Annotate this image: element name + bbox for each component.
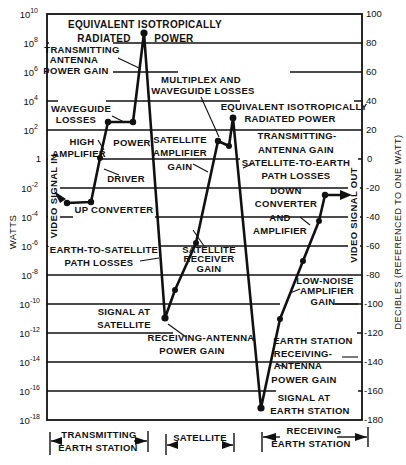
svg-text:SATELLITE: SATELLITE bbox=[173, 432, 227, 443]
svg-text:80: 80 bbox=[366, 37, 377, 48]
svg-text:EQUIVALENT ISOTROPICALLY: EQUIVALENT ISOTROPICALLY bbox=[221, 101, 368, 112]
svg-text:DRIVER: DRIVER bbox=[107, 173, 145, 184]
svg-text:10-4: 10-4 bbox=[21, 210, 38, 223]
svg-text:GAIN: GAIN bbox=[197, 263, 222, 274]
svg-text:AMPLIFIER: AMPLIFIER bbox=[300, 285, 354, 296]
svg-text:POWER: POWER bbox=[154, 33, 194, 44]
svg-text:10-14: 10-14 bbox=[19, 355, 40, 368]
svg-text:10-12: 10-12 bbox=[19, 326, 40, 339]
section-labels: TRANSMITTING EARTH STATION SATELLITE REC… bbox=[58, 425, 351, 453]
svg-text:100: 100 bbox=[366, 8, 382, 19]
svg-text:EARTH STATION: EARTH STATION bbox=[273, 335, 353, 346]
svg-text:TRANSMITTING: TRANSMITTING bbox=[61, 429, 136, 440]
left-axis-ticks: 1010 108 106 104 102 1 10-2 10-4 10-6 10… bbox=[19, 7, 41, 426]
svg-text:-40: -40 bbox=[366, 211, 380, 222]
svg-text:EARTH-TO-SATELLITE: EARTH-TO-SATELLITE bbox=[50, 244, 159, 255]
svg-text:POWER: POWER bbox=[113, 137, 150, 148]
video-signal-out-label: VIDEO SIGNAL OUT bbox=[348, 167, 359, 262]
right-axis-title: DECIBLES (REFERENCED TO ONE WATT) bbox=[393, 134, 403, 329]
svg-text:RECEIVING: RECEIVING bbox=[287, 425, 342, 436]
svg-text:MULTIPLEX AND: MULTIPLEX AND bbox=[161, 74, 241, 85]
svg-text:UP CONVERTER: UP CONVERTER bbox=[75, 204, 154, 215]
svg-text:104: 104 bbox=[24, 94, 39, 107]
svg-text:102: 102 bbox=[24, 123, 39, 136]
svg-text:EARTH STATION: EARTH STATION bbox=[58, 442, 138, 453]
svg-text:AND: AND bbox=[269, 212, 290, 223]
svg-text:60: 60 bbox=[366, 66, 377, 77]
svg-text:1: 1 bbox=[36, 153, 41, 164]
svg-text:-20: -20 bbox=[366, 182, 380, 193]
svg-text:WAVEGUIDE: WAVEGUIDE bbox=[51, 103, 111, 114]
svg-text:108: 108 bbox=[24, 36, 39, 49]
svg-text:PATH LOSSES: PATH LOSSES bbox=[65, 257, 134, 268]
svg-text:SIGNAL AT: SIGNAL AT bbox=[278, 392, 331, 403]
svg-text:RADIATED POWER: RADIATED POWER bbox=[244, 113, 335, 124]
svg-text:10-6: 10-6 bbox=[21, 239, 38, 252]
svg-text:40: 40 bbox=[366, 95, 377, 106]
svg-text:10-8: 10-8 bbox=[21, 268, 38, 281]
svg-text:10-2: 10-2 bbox=[21, 181, 38, 194]
svg-text:EQUIVALENT ISOTROPICALLY: EQUIVALENT ISOTROPICALLY bbox=[68, 19, 222, 30]
svg-text:RECEIVING-: RECEIVING- bbox=[274, 348, 332, 359]
svg-text:10-18: 10-18 bbox=[19, 413, 40, 426]
svg-text:POWER GAIN: POWER GAIN bbox=[159, 345, 224, 356]
right-axis-ticks: 100 80 60 40 20 0 -20 -40 -60 -80 -100 -… bbox=[364, 8, 383, 425]
svg-text:-180: -180 bbox=[364, 414, 383, 425]
svg-text:106: 106 bbox=[24, 65, 39, 78]
svg-text:CONVERTER: CONVERTER bbox=[255, 198, 317, 209]
svg-text:10-16: 10-16 bbox=[19, 384, 40, 397]
svg-text:WAVEGUIDE LOSSES: WAVEGUIDE LOSSES bbox=[151, 85, 254, 96]
svg-text:-140: -140 bbox=[364, 356, 383, 367]
svg-text:ANTENNA GAIN: ANTENNA GAIN bbox=[258, 144, 334, 155]
svg-text:-100: -100 bbox=[364, 298, 383, 309]
svg-text:-80: -80 bbox=[366, 269, 380, 280]
svg-text:-120: -120 bbox=[364, 327, 383, 338]
svg-text:EARTH STATION: EARTH STATION bbox=[270, 405, 350, 416]
svg-text:GAIN: GAIN bbox=[311, 296, 336, 307]
svg-text:POWER GAIN: POWER GAIN bbox=[271, 374, 336, 385]
svg-text:ANTENNA: ANTENNA bbox=[50, 54, 99, 65]
left-axis-title: WATTS bbox=[7, 215, 18, 250]
svg-text:SATELLITE: SATELLITE bbox=[153, 134, 207, 145]
svg-text:RADIATED: RADIATED bbox=[77, 33, 130, 44]
svg-text:-160: -160 bbox=[364, 385, 383, 396]
svg-text:DOWN: DOWN bbox=[270, 185, 301, 196]
svg-text:POWER GAIN: POWER GAIN bbox=[43, 65, 108, 76]
svg-text:10-10: 10-10 bbox=[19, 297, 40, 310]
svg-text:AMPLIFIER: AMPLIFIER bbox=[253, 225, 307, 236]
svg-text:GAIN: GAIN bbox=[168, 161, 193, 172]
svg-text:-60: -60 bbox=[366, 240, 380, 251]
svg-text:HIGH: HIGH bbox=[70, 136, 95, 147]
svg-text:SATELLITE: SATELLITE bbox=[97, 319, 151, 330]
svg-text:RECEIVING-ANTENNA: RECEIVING-ANTENNA bbox=[148, 332, 255, 343]
svg-text:1010: 1010 bbox=[20, 7, 38, 20]
svg-text:20: 20 bbox=[366, 124, 377, 135]
svg-text:TRANSMITTING-: TRANSMITTING- bbox=[258, 130, 337, 141]
svg-text:SATELLITE-TO-EARTH: SATELLITE-TO-EARTH bbox=[242, 157, 351, 168]
svg-text:0: 0 bbox=[367, 153, 372, 164]
svg-text:AMPLIFIER: AMPLIFIER bbox=[153, 147, 207, 158]
svg-text:LOSSES: LOSSES bbox=[56, 114, 96, 125]
link-budget-diagram: 1010 108 106 104 102 1 10-2 10-4 10-6 10… bbox=[0, 0, 406, 465]
svg-text:SIGNAL AT: SIGNAL AT bbox=[98, 306, 151, 317]
svg-text:EARTH STATION: EARTH STATION bbox=[271, 438, 351, 449]
svg-text:PATH LOSSES: PATH LOSSES bbox=[262, 170, 331, 181]
